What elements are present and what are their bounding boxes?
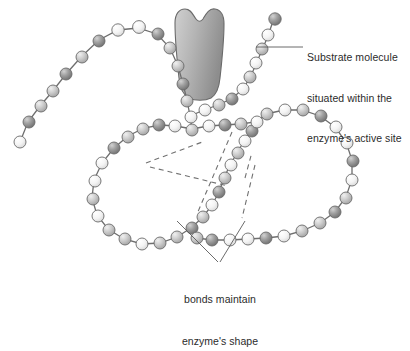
bonds-label-line1: bonds maintain [160, 292, 280, 306]
bonds-label-line2: enzyme's shape [160, 334, 280, 348]
substrate-label-line3: enzyme's active site [307, 132, 402, 146]
hydrogen-bonds-dashed [146, 132, 255, 218]
substrate-label-line2: situated within the [307, 92, 402, 106]
bonds-label: bonds maintain enzyme's shape [160, 264, 280, 351]
substrate-label: Substrate molecule situated within the e… [307, 24, 402, 173]
substrate-label-line1: Substrate molecule [307, 51, 402, 65]
